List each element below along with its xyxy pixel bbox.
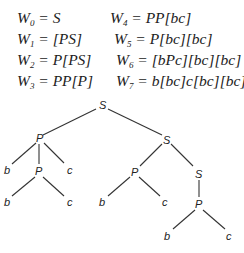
- node-b1: b: [4, 164, 10, 176]
- node-s2: S: [163, 134, 171, 146]
- node-root-s: S: [99, 99, 107, 111]
- node-b4: b: [164, 230, 170, 242]
- node-p1: P: [36, 132, 44, 144]
- node-p4: P: [195, 198, 203, 210]
- node-c4: c: [226, 230, 232, 242]
- node-p3: P: [131, 166, 139, 178]
- tree-edges: [12, 109, 225, 229]
- node-b2: b: [4, 196, 10, 208]
- node-c1: c: [67, 164, 73, 176]
- node-s3: S: [195, 168, 203, 180]
- node-p2: P: [35, 165, 43, 177]
- node-b3: b: [99, 196, 105, 208]
- node-c2: c: [67, 196, 73, 208]
- node-c3: c: [162, 196, 168, 208]
- derivation-tree: S P S b P c b c P S b c P b c: [0, 0, 244, 253]
